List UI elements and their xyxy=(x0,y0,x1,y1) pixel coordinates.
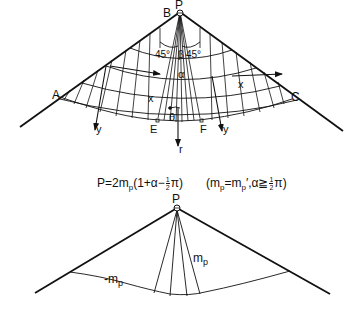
x-axis-arrow-right xyxy=(232,74,282,76)
collapse-load-formula: P=2mp(1+α−12π) xyxy=(97,176,183,192)
label-P-top: P xyxy=(175,0,183,12)
label-x-right: x xyxy=(238,78,244,90)
grid-transverse-left xyxy=(64,28,160,120)
label-B: B xyxy=(163,6,171,20)
label-P-bottom: P xyxy=(172,192,180,206)
label-alpha: α xyxy=(178,68,185,80)
label-F: F xyxy=(200,123,207,135)
label-A: A xyxy=(52,88,60,102)
diagram-canvas: P B A C E F 45° 45° β α θ x x y y r P xyxy=(0,0,359,316)
label-y-left: y xyxy=(96,123,102,135)
label-y-right: y xyxy=(223,123,229,135)
bottom-figure xyxy=(35,205,330,296)
boundary-line-right xyxy=(180,12,343,131)
y-axis-arrow-right xyxy=(212,76,222,131)
label-mp-positive: mp xyxy=(193,251,208,267)
label-angle-right: 45° xyxy=(186,49,201,60)
negative-moment-line xyxy=(70,271,290,295)
label-beta: β xyxy=(178,49,184,60)
label-theta: θ xyxy=(169,111,175,123)
bottom-labels: P mp -mp xyxy=(104,192,208,288)
label-angle-left: 45° xyxy=(155,49,170,60)
fan-lines xyxy=(158,12,200,122)
label-x-left: x xyxy=(148,92,154,104)
label-r: r xyxy=(179,143,183,155)
formula-condition: (mp=mp′,α≧12π) xyxy=(206,176,287,192)
angle-arc-right xyxy=(182,42,200,47)
label-C: C xyxy=(291,90,300,104)
label-E: E xyxy=(150,123,157,135)
label-mp-negative: -mp xyxy=(104,272,123,288)
